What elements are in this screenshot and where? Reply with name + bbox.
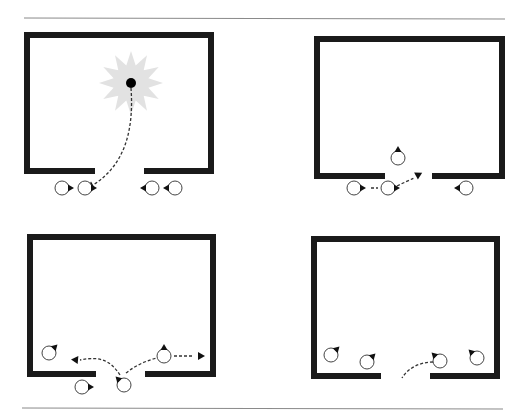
agent-icon [157,344,171,363]
agent-icon [429,350,447,368]
agent-icon [324,344,342,362]
wall-left [24,32,30,174]
heading-arrow-icon [68,185,74,192]
wall-bottom-left [314,173,385,179]
agent-icon [360,351,378,369]
heading-arrow-icon [454,185,460,192]
heading-arrow-icon [395,146,402,152]
heading-arrow-icon [163,185,169,192]
movement-path [93,88,132,185]
wall-bottom-right [430,373,500,379]
agent-icon [42,342,60,360]
wall-bottom-right [145,371,216,377]
wall-bottom-right [144,168,214,174]
wall-top [24,32,214,38]
movement-path [126,358,157,373]
wall-right [210,234,216,377]
agent-icon [381,181,400,195]
arrowhead-icon [71,355,79,364]
agent-icon [466,347,484,365]
bottom-rule [22,408,503,409]
wall-right [494,236,500,379]
panel-top-left [24,32,214,195]
agent-icon [78,181,97,195]
agent-icon [113,374,131,392]
movement-path [402,362,433,378]
panel-bottom-right [311,236,500,379]
wall-bottom-left [24,168,95,174]
wall-bottom-left [311,373,381,379]
agent-icon [347,181,366,195]
agent-icon [55,181,74,195]
arrowhead-icon [198,352,205,360]
wall-top [311,236,500,242]
wall-top [314,36,505,42]
wall-right [208,32,214,174]
panel-top-right [314,36,505,195]
panels [24,32,505,394]
agent-icon [163,181,182,195]
movement-path [397,178,414,186]
arrowhead-icon [414,169,424,179]
wall-top [27,234,216,240]
heading-arrow-icon [140,185,146,192]
horizontal-rules [22,18,505,409]
agent-icon [140,181,159,195]
wall-left [314,36,320,179]
agent-icon [391,146,405,165]
room-evacuation-diagram [0,0,522,420]
wall-bottom-right [432,173,505,179]
agent-icon [454,181,473,195]
heading-arrow-icon [88,384,94,391]
heading-arrow-icon [360,185,366,192]
wall-left [311,236,317,379]
target-dot-icon [126,78,136,88]
wall-bottom-left [27,371,96,377]
wall-right [499,36,505,179]
room-walls [314,36,505,179]
heading-arrow-icon [161,344,168,350]
agent-icon [75,380,94,394]
top-rule [24,18,505,19]
wall-left [27,234,33,377]
panel-bottom-left [27,234,216,394]
heading-arrow-icon [91,185,97,192]
